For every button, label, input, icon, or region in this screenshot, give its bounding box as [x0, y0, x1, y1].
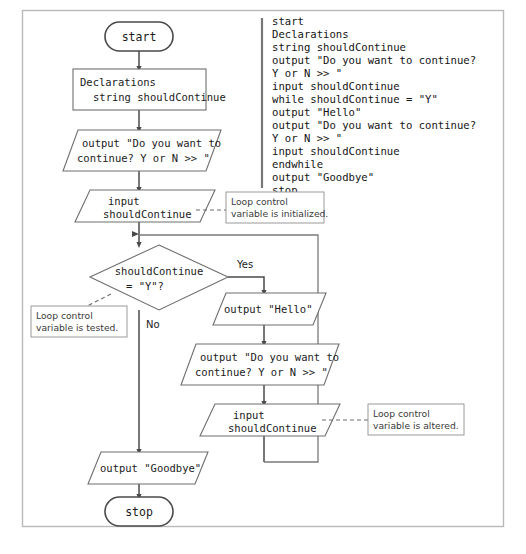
pseudocode-line-10: Y or N >> " — [272, 132, 342, 144]
node-stop[interactable]: stop — [105, 497, 173, 526]
callout-altered: Loop control variable is altered. — [322, 404, 464, 435]
pseudocode-line-6: input shouldContinue — [272, 80, 400, 92]
pseudocode-line-12: endwhile — [272, 158, 323, 170]
input-loop-line1: input — [233, 409, 265, 421]
prompt-loop-line1: output "Do you want to — [200, 351, 339, 363]
prompt-loop-line2: continue? Y or N >> " — [195, 366, 328, 378]
input-first-line2: shouldContinue — [103, 208, 192, 220]
pseudocode-line-4: output "Do you want to continue? — [272, 54, 476, 66]
connector-yes-branch — [228, 277, 264, 293]
callout-tested-line1: Loop control — [36, 310, 93, 321]
pseudocode-line-2: Declarations — [272, 28, 349, 40]
pseudocode-line-1: start — [272, 15, 304, 27]
decision-yes-label: Yes — [236, 259, 253, 270]
merge-inbound-arrowhead — [132, 231, 139, 237]
declarations-line1: Declarations — [80, 76, 156, 88]
pseudocode-line-7: while shouldContinue = "Y" — [272, 93, 438, 105]
prompt-first-line1: output "Do you want to — [82, 137, 221, 149]
callout-altered-line1: Loop control — [373, 408, 430, 419]
pseudocode-line-5: Y or N >> " — [272, 67, 342, 79]
start-label: start — [122, 30, 157, 44]
output-hello-line1: output "Hello" — [224, 303, 313, 315]
pseudocode-line-9: output "Do you want to continue? — [272, 119, 476, 131]
pseudocode-line-13: output "Goodbye" — [272, 171, 374, 183]
callout-altered-line2: variable is altered. — [373, 420, 459, 431]
node-output-goodbye[interactable]: output "Goodbye" — [88, 452, 208, 484]
callout-initialized: Loop control variable is initialized. — [196, 192, 328, 223]
node-input-loop[interactable]: input shouldContinue — [200, 404, 340, 436]
pseudocode-line-3: string shouldContinue — [272, 41, 406, 53]
decision-line1: shouldContinue — [115, 265, 204, 277]
figure-caption-svg — [0, 536, 526, 554]
node-output-hello[interactable]: output "Hello" — [213, 293, 326, 325]
decision-diamond-shape — [90, 245, 228, 310]
pseudocode-line-8: output "Hello" — [272, 106, 361, 118]
node-start[interactable]: start — [105, 22, 173, 51]
pseudocode-line-11: input shouldContinue — [272, 145, 400, 157]
input-loop-line2: shouldContinue — [228, 422, 317, 434]
callout-initialized-line2: variable is initialized. — [231, 208, 328, 219]
output-goodbye-line1: output "Goodbye" — [100, 462, 201, 474]
decision-no-label: No — [146, 319, 160, 330]
decision-line2: = "Y"? — [126, 280, 164, 292]
prompt-first-line2: continue? Y or N >> " — [77, 152, 210, 164]
figure-container: start Declarations string shouldContinue… — [0, 0, 526, 554]
node-input-first[interactable]: input shouldContinue — [75, 190, 215, 222]
callout-tested: Loop control variable is tested. — [31, 294, 127, 337]
callout-tested-line2: variable is tested. — [36, 322, 118, 333]
pseudocode-panel: start Declarations string shouldContinue… — [262, 15, 476, 196]
declarations-line2: string shouldContinue — [93, 91, 226, 103]
input-first-line1: input — [108, 195, 140, 207]
node-declarations[interactable]: Declarations string shouldContinue — [73, 69, 226, 110]
node-prompt-loop[interactable]: output "Do you want to continue? Y or N … — [181, 344, 339, 385]
callout-initialized-line1: Loop control — [231, 196, 288, 207]
stop-label: stop — [125, 505, 153, 519]
figure-caption-strip — [0, 536, 526, 554]
node-prompt-first[interactable]: output "Do you want to continue? Y or N … — [63, 130, 221, 171]
flowchart-diagram: start Declarations string shouldContinue… — [0, 0, 526, 554]
